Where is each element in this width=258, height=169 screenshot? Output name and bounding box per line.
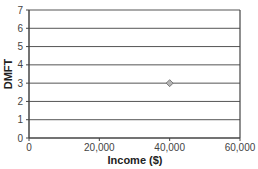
data-points <box>166 80 173 87</box>
scatter-chart: 01234567 020,00040,00060,000 Income ($) … <box>0 0 258 169</box>
y-axis-ticks: 01234567 <box>17 5 29 144</box>
x-axis-label: Income ($) <box>107 154 162 166</box>
y-tick-label: 7 <box>17 5 23 16</box>
y-tick-label: 6 <box>17 23 23 34</box>
x-axis-ticks: 020,00040,00060,000 <box>26 138 256 153</box>
x-tick-label: 60,000 <box>225 142 256 153</box>
y-tick-label: 4 <box>17 59 23 70</box>
x-tick-label: 20,000 <box>84 142 115 153</box>
diamond-marker-icon <box>166 80 173 87</box>
y-tick-label: 3 <box>17 78 23 89</box>
y-tick-label: 0 <box>17 133 23 144</box>
y-tick-label: 1 <box>17 114 23 125</box>
y-tick-label: 5 <box>17 41 23 52</box>
y-axis-label: DMFT <box>2 58 14 89</box>
y-tick-label: 2 <box>17 96 23 107</box>
gridlines <box>29 10 240 120</box>
x-tick-label: 0 <box>26 142 32 153</box>
axes <box>29 10 240 138</box>
x-tick-label: 40,000 <box>154 142 185 153</box>
